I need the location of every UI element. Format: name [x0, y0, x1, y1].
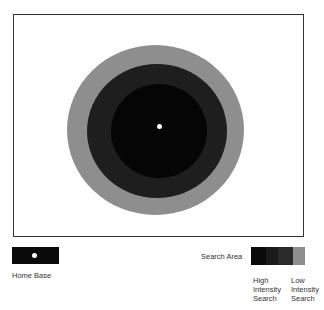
- high-intensity-search-zone: [111, 84, 207, 178]
- home-base-dot-icon: [32, 253, 37, 258]
- search-area-legend-gradient: [251, 247, 305, 265]
- gradient-segment-high: [251, 247, 266, 265]
- search-area-map: [13, 14, 304, 237]
- low-label-line2: Intensity: [291, 285, 319, 294]
- low-label-line3: Search: [291, 294, 319, 303]
- home-base-legend-label: Home Base: [12, 271, 51, 280]
- high-label-line3: Search: [253, 294, 281, 303]
- high-label-line2: Intensity: [253, 285, 281, 294]
- gradient-segment-mid-high: [266, 247, 278, 265]
- gradient-segment-mid: [278, 247, 293, 265]
- home-base-marker: [157, 124, 162, 129]
- search-area-legend-label: Search Area: [201, 252, 242, 261]
- low-label-line1: Low: [291, 276, 319, 285]
- high-intensity-label: High Intensity Search: [253, 276, 281, 303]
- gradient-segment-low: [293, 247, 305, 265]
- low-intensity-label: Low Intensity Search: [291, 276, 319, 303]
- home-base-legend-swatch: [12, 247, 59, 264]
- high-label-line1: High: [253, 276, 281, 285]
